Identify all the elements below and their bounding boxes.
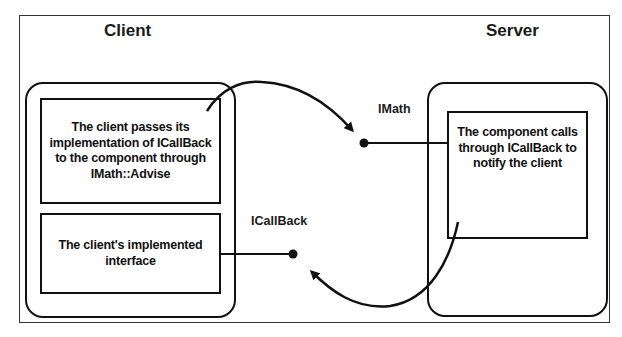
advise-arrow	[207, 82, 352, 130]
imath-interface-dot	[360, 139, 369, 148]
callback-arrow	[312, 222, 458, 307]
connectors	[0, 0, 622, 337]
icallback-interface-dot	[289, 250, 298, 259]
